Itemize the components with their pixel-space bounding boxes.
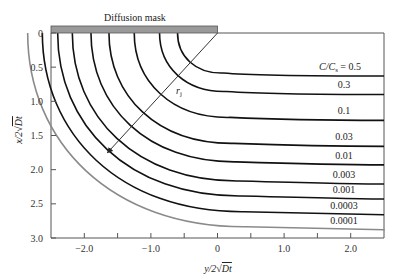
contour-label: 0.003 (333, 169, 356, 180)
y-tick-label: 0 (38, 28, 43, 39)
contour-label: 0.001 (333, 184, 356, 195)
diffusion-mask (51, 26, 218, 33)
y-tick-label: 2.0 (31, 164, 44, 175)
contour-label: 0.3 (338, 79, 351, 90)
y-tick-label: 3.0 (31, 233, 44, 244)
x-axis-title: y/2√Dt (203, 263, 232, 274)
x-tick-label: −2.0 (75, 243, 93, 254)
y-tick-label: 1.0 (31, 96, 44, 107)
contour-label: 0.0001 (330, 215, 358, 226)
contour-line (91, 33, 384, 165)
y-tick-label: 1.5 (31, 130, 44, 141)
diffusion-contour-chart: −2.0−1.001.02.000.51.01.52.02.53.0 C/Cs … (0, 0, 398, 280)
radius-label: rj (176, 85, 182, 98)
x-tick-label: 0 (215, 243, 220, 254)
axis-ticks: −2.0−1.001.02.000.51.01.52.02.53.0 (31, 28, 357, 255)
x-tick-label: −1.0 (142, 243, 160, 254)
x-tick-label: 2.0 (344, 243, 357, 254)
contour-label: 0.0003 (330, 200, 358, 211)
contour-label: 0.1 (338, 105, 351, 116)
y-tick-label: 0.5 (31, 62, 44, 73)
x-tick-label: 1.0 (278, 243, 291, 254)
contour-label: 0.03 (335, 131, 353, 142)
y-tick-label: 2.5 (31, 198, 44, 209)
y-axis-title: x/2√Dt (13, 116, 24, 145)
mask-bar (51, 26, 218, 33)
contour-labels: C/Cs = 0.50.30.10.030.010.0030.0010.0003… (319, 61, 361, 226)
mask-title: Diffusion mask (104, 12, 166, 23)
contour-label: 0.01 (335, 150, 353, 161)
contour-label: C/Cs = 0.5 (319, 61, 361, 74)
